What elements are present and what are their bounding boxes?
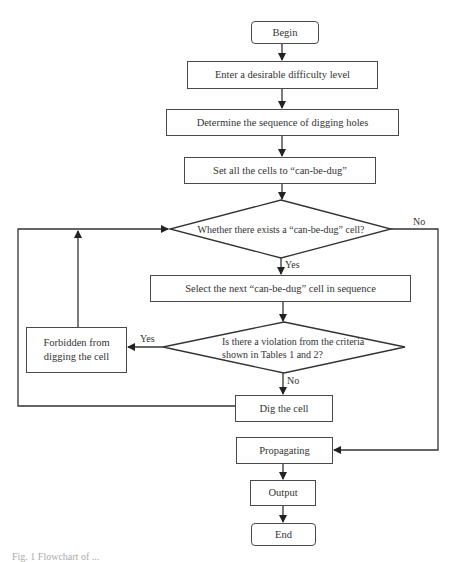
determine-sequence-node: Determine the sequence of digging holes: [166, 109, 399, 136]
propagating-node: Propagating: [236, 437, 333, 464]
determine-sequence-label: Determine the sequence of digging holes: [197, 116, 369, 130]
begin-node: Begin: [251, 21, 319, 44]
propagating-label: Propagating: [259, 444, 310, 458]
exists-yes-label: Yes: [285, 259, 300, 270]
exists-decision-node: Whether there exists a “can-be-dug” cell…: [190, 219, 372, 239]
violation-label-line2: shown in Tables 1 and 2?: [222, 348, 323, 361]
forbidden-label-line1: Forbidden from: [43, 336, 109, 350]
begin-label: Begin: [272, 26, 297, 40]
exists-decision-label: Whether there exists a “can-be-dug” cell…: [198, 223, 365, 236]
violation-yes-label: Yes: [140, 333, 155, 344]
end-label: End: [275, 528, 292, 542]
set-all-cells-label: Set all the cells to “can-be-dug”: [213, 164, 347, 178]
set-all-cells-node: Set all the cells to “can-be-dug”: [184, 157, 376, 184]
forbidden-node: Forbidden from digging the cell: [26, 327, 127, 373]
select-next-cell-label: Select the next “can-be-dug” cell in seq…: [185, 282, 376, 296]
enter-difficulty-node: Enter a desirable difficulty level: [187, 61, 378, 89]
dig-cell-label: Dig the cell: [260, 402, 309, 416]
end-node: End: [251, 523, 316, 546]
output-label: Output: [268, 486, 297, 500]
output-node: Output: [250, 480, 316, 506]
select-next-cell-node: Select the next “can-be-dug” cell in seq…: [150, 275, 411, 302]
violation-decision-node: Is there a violation from the criteria s…: [200, 335, 368, 361]
violation-no-label: No: [287, 375, 299, 386]
exists-no-label: No: [413, 216, 425, 227]
enter-difficulty-label: Enter a desirable difficulty level: [215, 68, 350, 82]
dig-cell-node: Dig the cell: [235, 395, 333, 422]
forbidden-label-line2: digging the cell: [44, 350, 109, 364]
violation-label-line1: Is there a violation from the criteria: [222, 335, 364, 348]
figure-caption: Fig. 1 Flowchart of ...: [12, 551, 99, 562]
